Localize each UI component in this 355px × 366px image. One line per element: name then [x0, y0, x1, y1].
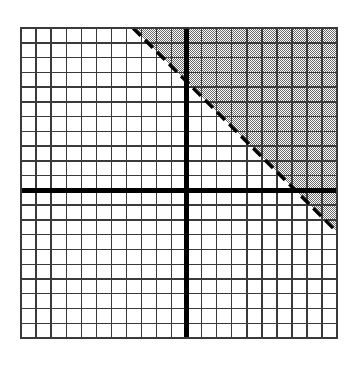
figure-root: Coordinate grid with shaded linear inequ… — [0, 0, 355, 366]
coordinate-grid-graph: Coordinate grid with shaded linear inequ… — [0, 0, 355, 366]
